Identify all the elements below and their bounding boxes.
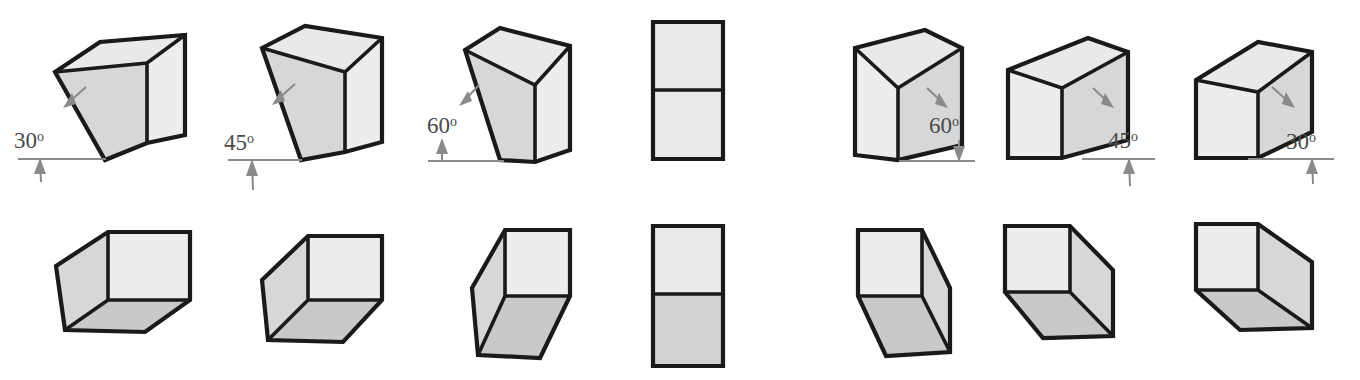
top-row-box-6: 45o [1008, 38, 1155, 186]
top-row-box-4 [653, 22, 723, 159]
bottom-row-box-4 [653, 226, 723, 366]
degree-symbol: o [247, 131, 254, 146]
box-lower-face [653, 294, 723, 366]
bottom-row-box-1 [56, 232, 190, 332]
box-front-face [1005, 226, 1070, 292]
angle-label-7: 30o [1286, 129, 1316, 154]
angle-label-6: 45o [1108, 128, 1138, 153]
box-front-face [1196, 224, 1258, 290]
degree-symbol: o [952, 114, 959, 129]
angle-number: 60 [427, 113, 450, 138]
bottom-row-box-7 [1196, 224, 1312, 330]
top-row-box-3: 60o [427, 28, 570, 162]
figure-container: 30o 45o [0, 0, 1360, 380]
indicator-arrow-up-icon [246, 159, 258, 176]
angle-number: 45 [1108, 128, 1131, 153]
indicator-arrow-up-icon [436, 138, 448, 154]
top-row-box-5: 60o [855, 30, 975, 162]
bottom-row-box-2 [262, 236, 382, 342]
box-front-face [505, 230, 570, 296]
degree-symbol: o [37, 129, 44, 144]
indicator-arrow-up-icon [1123, 158, 1135, 174]
top-row-box-1: 30o [14, 35, 185, 182]
angle-number: 30 [14, 128, 37, 153]
angle-number: 45 [224, 130, 247, 155]
angle-label-1: 30o [14, 128, 44, 153]
bottom-row-box-5 [858, 230, 950, 356]
degree-symbol: o [450, 114, 457, 129]
indicator-arrow-up-icon [1306, 158, 1318, 174]
box-side-face [55, 63, 147, 160]
box-front-face [108, 232, 190, 300]
box-upper-face [653, 22, 723, 90]
box-lower-face [653, 90, 723, 159]
angle-number: 30 [1286, 129, 1309, 154]
indicator-arrow-down-icon [953, 146, 965, 162]
box-projection-figure: 30o 45o [0, 0, 1360, 380]
indicator-arrow-up-icon [34, 158, 46, 174]
angle-label-2: 45o [224, 130, 254, 155]
box-upper-face [653, 226, 723, 294]
angle-number: 60 [929, 113, 952, 138]
bottom-row-box-3 [472, 230, 570, 358]
top-row-box-7: 30o [1196, 42, 1334, 184]
top-row-box-2: 45o [224, 26, 382, 190]
angle-label-3: 60o [427, 113, 457, 138]
degree-symbol: o [1131, 129, 1138, 144]
bottom-row-box-6 [1005, 226, 1113, 338]
degree-symbol: o [1309, 130, 1316, 145]
box-front-face [308, 236, 382, 300]
box-front-face [858, 230, 922, 296]
